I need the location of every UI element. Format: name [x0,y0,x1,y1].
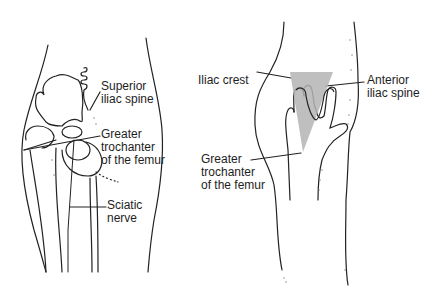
label-greater-trochanter-right: Greater trochanter of the femur [201,153,265,192]
label-sciatic-nerve: Sciatic nerve [107,199,142,225]
anatomy-figure: Superior iliac spine Greater trochanter … [0,0,431,305]
label-iliac-crest: Iliac crest [198,74,249,87]
label-line: nerve [107,212,142,225]
leader-superior-iliac-spine [90,92,100,110]
label-superior-iliac-spine: Superior iliac spine [101,80,154,106]
label-greater-trochanter: Greater trochanter of the femur [101,128,165,167]
label-line: iliac spine [101,93,154,106]
label-line: iliac spine [367,87,420,100]
left-body-outline-left [22,45,48,272]
leader-iliac-crest [257,72,291,78]
label-line: of the femur [201,179,265,192]
label-line: of the femur [101,154,165,167]
landmark-triangle [290,72,333,152]
label-anterior-iliac-spine: Anterior iliac spine [367,74,420,100]
label-line: Iliac crest [198,74,249,87]
